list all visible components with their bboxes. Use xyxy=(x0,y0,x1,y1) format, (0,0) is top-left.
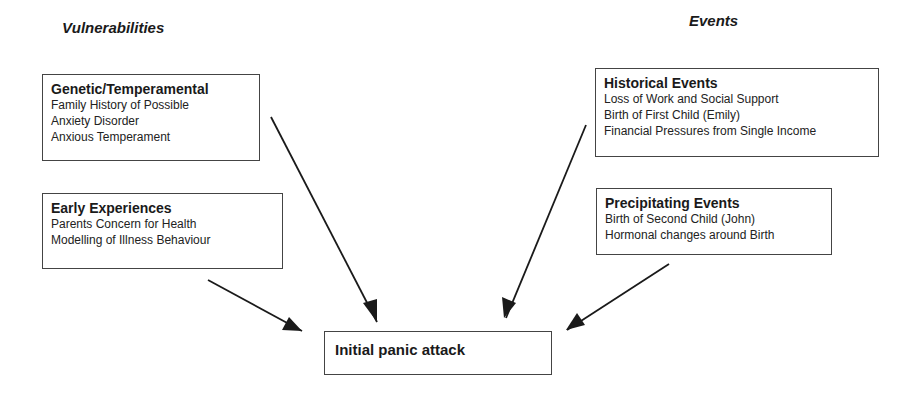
box-line: Loss of Work and Social Support xyxy=(604,91,870,107)
box-line: Birth of First Child (Emily) xyxy=(604,107,870,123)
genetic-temperamental-box: Genetic/Temperamental Family History of … xyxy=(42,74,260,161)
precipitating-events-box: Precipitating Events Birth of Second Chi… xyxy=(596,188,832,255)
arrowhead-icon xyxy=(566,313,585,330)
initial-panic-attack-box: Initial panic attack xyxy=(324,331,552,375)
events-heading: Events xyxy=(689,12,738,29)
central-title: Initial panic attack xyxy=(335,341,541,359)
arrow-historical-to-central xyxy=(502,125,586,318)
box-title: Historical Events xyxy=(604,75,870,91)
vulnerabilities-heading: Vulnerabilities xyxy=(62,19,164,36)
historical-events-box: Historical Events Loss of Work and Socia… xyxy=(595,68,879,157)
arrow-genetic-to-central xyxy=(271,117,377,322)
box-line: Parents Concern for Health xyxy=(51,216,274,232)
arrow-early-to-central xyxy=(208,280,302,331)
arrowhead-icon xyxy=(282,317,302,331)
box-line: Anxious Temperament xyxy=(51,129,251,145)
arrow-precipitating-to-central xyxy=(566,264,669,330)
box-title: Genetic/Temperamental xyxy=(51,81,251,97)
box-title: Precipitating Events xyxy=(605,195,823,211)
box-line: Modelling of Illness Behaviour xyxy=(51,232,274,248)
box-title: Early Experiences xyxy=(51,200,274,216)
box-line: Anxiety Disorder xyxy=(51,113,251,129)
arrowhead-icon xyxy=(502,297,516,318)
box-line: Financial Pressures from Single Income xyxy=(604,123,870,139)
early-experiences-box: Early Experiences Parents Concern for He… xyxy=(42,193,283,269)
box-line: Family History of Possible xyxy=(51,97,251,113)
box-line: Birth of Second Child (John) xyxy=(605,211,823,227)
arrowhead-icon xyxy=(363,299,377,322)
box-line: Hormonal changes around Birth xyxy=(605,227,823,243)
